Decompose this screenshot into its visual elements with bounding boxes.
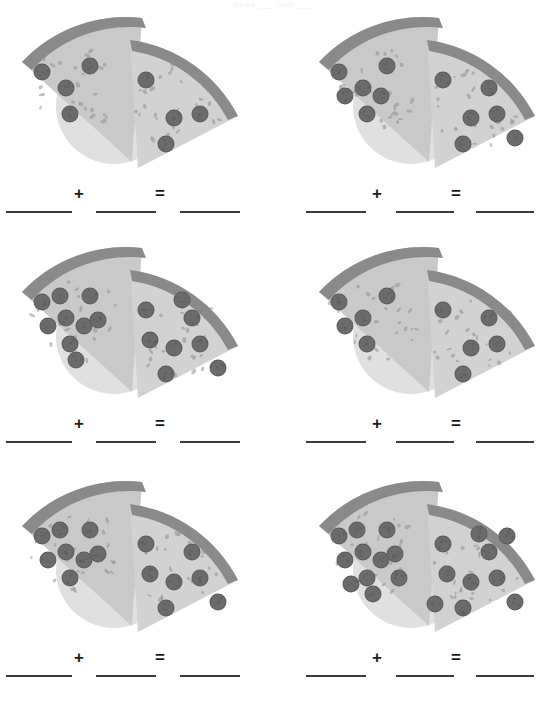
pizza-slice-right [311,240,541,405]
plus-operator: + [74,649,84,666]
answer-blank-right-addend[interactable] [396,441,454,443]
plus-operator: + [372,649,382,666]
answer-blank-left-addend[interactable] [6,211,72,213]
plus-operator: + [74,415,84,432]
answer-blank-right-addend[interactable] [396,675,454,677]
pizza-stage [14,240,244,405]
pizza-illustration [0,474,273,639]
equals-operator: = [155,649,165,666]
equals-operator: = [155,415,165,432]
equals-operator: = [451,185,461,202]
pizza-slice-right [14,240,244,405]
pizza-illustration [273,240,546,405]
pizza-slice-right [14,10,244,175]
problem-2: += [273,4,546,238]
pizza-stage [311,10,541,175]
answer-blank-left-addend[interactable] [306,211,366,213]
pizza-slice-right [14,474,244,639]
answer-blank-sum[interactable] [180,675,240,677]
pizza-illustration [0,10,273,175]
answer-blank-sum[interactable] [476,675,534,677]
pizza-illustration [273,10,546,175]
pizza-illustration [273,474,546,639]
answer-blank-right-addend[interactable] [396,211,454,213]
equation-row: += [273,175,546,233]
equation-row: += [273,405,546,463]
pizza-stage [311,240,541,405]
problem-6: += [273,468,546,702]
plus-operator: + [372,185,382,202]
problem-5: += [0,468,273,702]
answer-blank-left-addend[interactable] [306,675,366,677]
answer-blank-right-addend[interactable] [96,675,156,677]
pizza-stage [14,474,244,639]
answer-blank-sum[interactable] [476,441,534,443]
answer-blank-sum[interactable] [476,211,534,213]
equation-row: += [0,405,273,463]
pizza-slice-right [311,10,541,175]
equation-row: += [273,639,546,697]
answer-blank-left-addend[interactable] [6,675,72,677]
answer-blank-left-addend[interactable] [306,441,366,443]
equation-row: += [0,639,273,697]
plus-operator: + [372,415,382,432]
problem-3: += [0,234,273,468]
pizza-stage [14,10,244,175]
problem-1: += [0,4,273,238]
pizza-stage [311,474,541,639]
pizza-slice-right [311,474,541,639]
worksheet-page: Name ___ Date ___ +=+=+=+=+=+= [0,0,546,703]
problem-4: += [273,234,546,468]
problem-grid: +=+=+=+=+=+= [0,0,546,703]
equation-row: += [0,175,273,233]
answer-blank-left-addend[interactable] [6,441,72,443]
plus-operator: + [74,185,84,202]
answer-blank-sum[interactable] [180,441,240,443]
answer-blank-sum[interactable] [180,211,240,213]
answer-blank-right-addend[interactable] [96,441,156,443]
equals-operator: = [451,415,461,432]
answer-blank-right-addend[interactable] [96,211,156,213]
equals-operator: = [451,649,461,666]
pizza-illustration [0,240,273,405]
equals-operator: = [155,185,165,202]
